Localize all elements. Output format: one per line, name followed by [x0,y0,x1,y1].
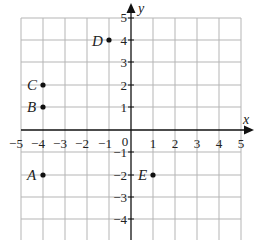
y-tick-label: 3 [121,55,128,70]
y-tick-label: 5 [121,10,128,25]
point-b-marker [40,104,45,109]
x-tick-label: 4 [216,136,223,151]
x-tick-label: −4 [31,136,45,151]
y-axis-label: y [136,1,145,16]
y-tick-label: −2 [113,168,127,183]
point-d-marker [106,37,111,42]
point-c-label: C [27,77,38,93]
x-tick-label: 2 [172,136,179,151]
x-tick-label: −3 [53,136,67,151]
coordinate-grid-diagram: y x −5 −4 −3 −2 −1 0 1 2 3 4 5 5 4 3 2 1… [0,0,258,240]
x-axis-label: x [242,112,250,127]
x-tick-label: −2 [75,136,89,151]
x-tick-label: 3 [194,136,201,151]
x-tick-label: −5 [9,136,23,151]
point-d-label: D [91,33,103,49]
y-tick-label: 1 [121,100,128,115]
point-a-marker [40,172,45,177]
y-tick-label: −4 [113,212,127,227]
y-axis [127,3,136,240]
y-tick-label: −1 [113,145,127,160]
y-tick-labels: 5 4 3 2 1 −1 −2 −3 −4 [113,10,127,227]
y-axis-arrow-icon [127,3,136,13]
point-b-label: B [27,99,36,115]
point-a-label: A [26,167,37,183]
point-e-marker [150,172,155,177]
x-tick-label: 5 [238,136,245,151]
point-c-marker [40,82,45,87]
x-tick-label: 1 [150,136,157,151]
y-tick-label: −3 [113,190,127,205]
y-tick-label: 2 [121,78,128,93]
y-tick-label: 4 [121,33,128,48]
x-tick-label: −1 [98,136,112,151]
point-e-label: E [137,167,147,183]
